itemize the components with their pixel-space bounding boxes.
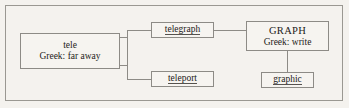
node-graph-meaning: Greek: write [264, 37, 312, 48]
connector-trunk-to-telegraph [127, 30, 152, 31]
node-telegraph: telegraph [151, 22, 214, 38]
node-graph-root: GRAPH [269, 25, 306, 37]
node-graph: GRAPH Greek: write [246, 21, 329, 51]
connector-graph-to-graphic [287, 51, 288, 72]
connector-telegraph-to-graph [214, 30, 247, 31]
node-tele: tele Greek: far away [20, 33, 120, 69]
node-teleport: teleport [151, 71, 214, 87]
node-graphic-word: graphic [273, 75, 302, 86]
node-tele-root: tele [63, 40, 77, 51]
node-telegraph-word: telegraph [165, 25, 200, 36]
diagram-frame: tele Greek: far away telegraph teleport … [5, 5, 343, 101]
connector-vertical-trunk [127, 30, 128, 79]
node-teleport-word: teleport [168, 74, 197, 85]
node-graphic: graphic [261, 72, 314, 88]
connector-trunk-to-teleport [127, 79, 152, 80]
node-tele-meaning: Greek: far away [39, 51, 100, 62]
